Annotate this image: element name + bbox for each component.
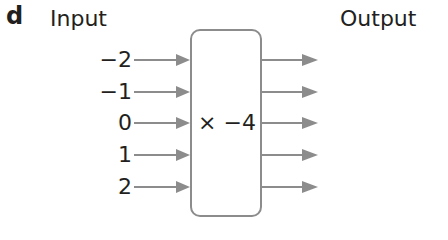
function-rule: × −4 bbox=[194, 110, 260, 135]
input-arrow-icon bbox=[134, 54, 190, 193]
output-arrow-icon bbox=[262, 54, 318, 193]
